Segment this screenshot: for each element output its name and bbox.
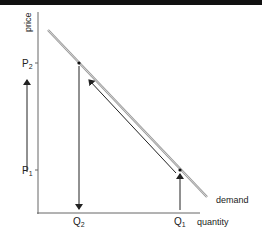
x-axis-label: quantity <box>197 217 229 227</box>
movement-along-curve-arrow <box>89 80 176 173</box>
q1-label: Q1 <box>174 216 186 228</box>
p1-label: P1 <box>22 165 33 177</box>
p2-label: P2 <box>22 58 33 70</box>
y-axis-label: price <box>23 12 33 32</box>
point-q2-p2 <box>77 61 80 64</box>
demand-curve-inner <box>48 30 207 197</box>
q2-label: Q2 <box>73 216 85 228</box>
point-q1-p1 <box>178 168 181 171</box>
demand-diagram: price P2 P1 Q2 Q1 quantity demand <box>0 0 262 240</box>
demand-label: demand <box>216 195 249 205</box>
